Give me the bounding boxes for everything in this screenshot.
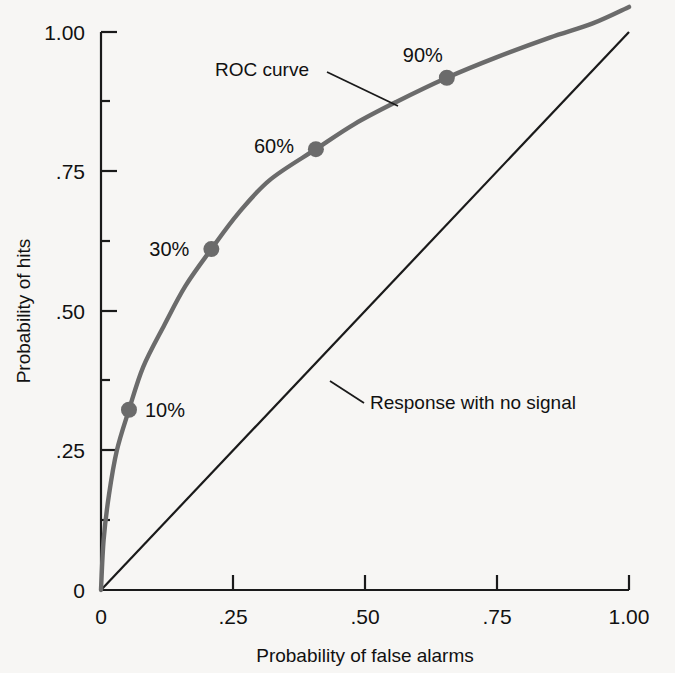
y-tick-label-0: 0	[73, 579, 85, 602]
x-axis-major-ticks	[233, 575, 629, 590]
roc-chart-svg: 1.00 .75 .50 .25 0 0 .25 .50 .75 1.00 10…	[0, 0, 675, 673]
y-axis-title: Probability of hits	[13, 239, 34, 384]
y-tick-label-0.75: .75	[56, 160, 85, 183]
x-tick-label-0.50: .50	[350, 605, 379, 628]
x-tick-label-1.00: 1.00	[609, 605, 650, 628]
data-point-marker-60pct	[308, 141, 324, 157]
data-point-marker-90pct	[439, 70, 455, 86]
roc-curve-annotation: ROC curve	[215, 59, 309, 80]
data-point-label-10pct: 10%	[145, 399, 185, 421]
roc-curve-figure: 1.00 .75 .50 .25 0 0 .25 .50 .75 1.00 10…	[0, 0, 675, 673]
roc-curve-series	[101, 7, 629, 590]
chance-line-leader-line	[330, 381, 364, 403]
data-point-marker-30pct	[203, 241, 219, 257]
y-tick-label-0.50: .50	[56, 300, 85, 323]
data-point-label-90pct: 90%	[403, 44, 443, 66]
data-point-label-30pct: 30%	[149, 238, 189, 260]
chance-line-annotation: Response with no signal	[370, 392, 576, 413]
x-tick-label-0: 0	[95, 605, 107, 628]
y-tick-label-1.00: 1.00	[44, 21, 85, 44]
data-point-marker-10pct	[121, 402, 137, 418]
roc-curve-leader-line	[327, 72, 398, 106]
data-point-label-60pct: 60%	[254, 135, 294, 157]
x-axis-title: Probability of false alarms	[256, 645, 474, 666]
x-tick-label-0.25: .25	[218, 605, 247, 628]
y-tick-label-0.25: .25	[56, 439, 85, 462]
x-tick-label-0.75: .75	[482, 605, 511, 628]
data-point-markers: 10%30%60%90%	[121, 44, 455, 421]
